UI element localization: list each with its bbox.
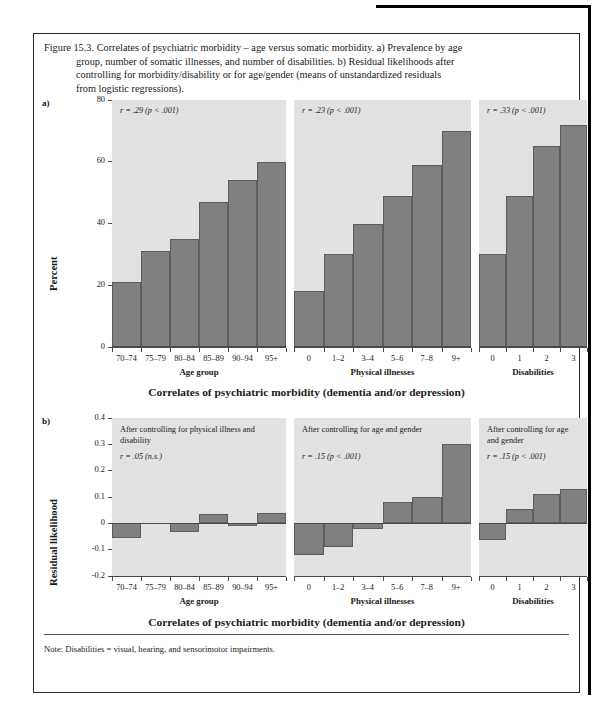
caption-line-4: from logistic regressions). <box>44 82 569 96</box>
axis-title-0: Age group <box>112 367 286 377</box>
y-tick-label: 80 <box>79 95 105 104</box>
bar-2-1 <box>506 509 533 523</box>
bar-1-0 <box>294 291 324 347</box>
bar-0-4 <box>228 180 257 347</box>
bar-0-0 <box>112 282 141 347</box>
x-tick <box>141 577 142 581</box>
x-tick <box>228 577 229 581</box>
figure-caption: Figure 15.3. Correlates of psychiatric m… <box>44 41 569 95</box>
x-tick <box>141 348 142 352</box>
bar-1-4 <box>412 165 442 347</box>
x-tick <box>560 348 561 352</box>
axis-title-2: Disabilities <box>479 367 587 377</box>
caption-line-3: controlling for morbidity/disability or … <box>44 68 569 82</box>
panel-a-ylabel: Percent <box>48 256 59 291</box>
bar-1-3 <box>383 196 413 347</box>
x-tick <box>533 348 534 352</box>
subpanel-annotation-1: r = .15 (p < .001) <box>302 452 361 461</box>
y-tick-label: -0.1 <box>79 544 105 553</box>
y-tick-label: 0.3 <box>79 439 105 448</box>
bar-2-1 <box>506 196 533 347</box>
x-tick <box>228 348 229 352</box>
bar-2-0 <box>479 254 506 347</box>
baseline-0 <box>112 523 286 524</box>
x-tick <box>471 348 472 352</box>
figure-frame: Figure 15.3. Correlates of psychiatric m… <box>33 33 580 693</box>
x-tick <box>257 348 258 352</box>
axis-title-1: Physical illnesses <box>294 596 471 606</box>
x-tick <box>412 577 413 581</box>
bar-0-5 <box>257 162 286 347</box>
subpanel-note-1: After controlling for age and gender <box>302 424 461 435</box>
bar-1-0 <box>294 523 324 555</box>
figure-note: Note: Disabilities = visual, hearing, an… <box>44 634 569 654</box>
x-tick <box>294 577 295 581</box>
bar-0-0 <box>112 523 141 537</box>
x-tick <box>471 577 472 581</box>
x-tick <box>170 348 171 352</box>
bar-0-1 <box>141 251 170 347</box>
panel-b-ylabel: Residual likelihood <box>48 499 59 586</box>
bar-1-2 <box>353 224 383 348</box>
axis-title-0: Age group <box>112 596 286 606</box>
x-tick <box>506 577 507 581</box>
x-tick-label: 3 <box>552 354 594 363</box>
x-tick <box>353 577 354 581</box>
subpanel-note-2: After controlling for age and gender <box>487 424 577 446</box>
chart-overall-title: Correlates of psychiatric morbidity (dem… <box>34 386 579 398</box>
panel-a-label: a) <box>42 98 50 108</box>
bar-1-1 <box>324 523 354 547</box>
subpanel-annotation-0: r = .29 (p < .001) <box>120 106 179 115</box>
y-tick-label: 0.1 <box>79 492 105 501</box>
subpanel-annotation-2: r = .15 (p < .001) <box>487 452 546 461</box>
axis-title-1: Physical illnesses <box>294 367 471 377</box>
bar-2-3 <box>560 489 587 523</box>
x-tick <box>479 577 480 581</box>
x-tick <box>560 577 561 581</box>
x-tick <box>324 348 325 352</box>
subpanel-annotation-0: r = .05 (n.s.) <box>120 452 162 461</box>
bar-2-2 <box>533 494 560 523</box>
bar-1-1 <box>324 254 354 347</box>
x-tick <box>170 577 171 581</box>
bar-1-3 <box>383 502 413 523</box>
x-tick <box>412 348 413 352</box>
bar-0-2 <box>170 523 199 531</box>
subpanel-annotation-2: r = .33 (p < .001) <box>487 106 546 115</box>
bar-1-5 <box>442 131 472 347</box>
x-tick <box>294 348 295 352</box>
y-tick-label: 40 <box>79 218 105 227</box>
chart-panel-b: b) Residual likelihood -0.2-0.100.10.20.… <box>34 414 579 629</box>
caption-line-2: group, number of somatic illnesses, and … <box>44 55 569 69</box>
x-tick <box>112 577 113 581</box>
x-tick-label: 3 <box>552 583 594 592</box>
x-tick <box>286 577 287 581</box>
x-tick <box>383 348 384 352</box>
x-tick <box>383 577 384 581</box>
x-tick <box>442 348 443 352</box>
chart-panel-a: a) Percent 020406080r = .29 (p < .001)70… <box>34 96 579 396</box>
baseline-1 <box>294 523 471 524</box>
y-tick-label: 60 <box>79 156 105 165</box>
figure-page: Figure 15.3. Correlates of psychiatric m… <box>0 0 594 712</box>
x-tick <box>353 348 354 352</box>
y-tick-label: 0 <box>79 518 105 527</box>
x-tick <box>587 348 588 352</box>
bar-2-3 <box>560 125 587 347</box>
x-tick <box>286 348 287 352</box>
x-tick <box>587 577 588 581</box>
y-tick-label: 0 <box>79 342 105 351</box>
x-tick <box>479 348 480 352</box>
y-tick-label: 0.4 <box>79 413 105 422</box>
bar-0-2 <box>170 239 199 347</box>
bar-2-2 <box>533 146 560 347</box>
bar-1-2 <box>353 523 383 529</box>
bar-2-0 <box>479 523 506 540</box>
y-tick-label: 20 <box>79 280 105 289</box>
bar-1-4 <box>412 497 442 523</box>
x-tick <box>199 348 200 352</box>
bar-0-3 <box>199 202 228 347</box>
chart-overall-title: Correlates of psychiatric morbidity (dem… <box>34 616 579 628</box>
x-tick <box>112 348 113 352</box>
x-tick <box>257 577 258 581</box>
